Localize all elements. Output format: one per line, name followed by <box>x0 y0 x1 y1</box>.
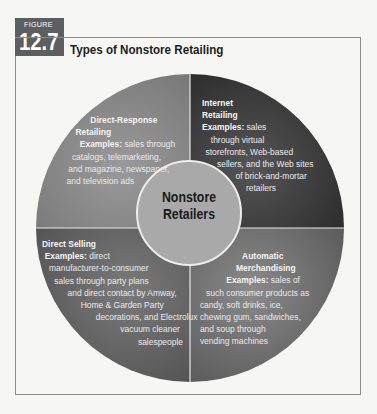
automatic-merchandising-heading: Automatic <box>242 250 283 261</box>
direct-selling-heading: Direct Selling <box>42 238 96 249</box>
direct-selling-text: Direct Selling Examples: direct manufact… <box>42 238 198 348</box>
internet-retailing-heading: Internet <box>202 97 233 108</box>
direct-response-heading: Direct-Response <box>90 114 157 125</box>
internet-retailing-text: Internet Retailing Examples: sales throu… <box>202 97 313 195</box>
direct-response-text: Direct-Response Retailing Examples: sale… <box>71 114 175 187</box>
automatic-merchandising-text: Automatic Merchandising Examples: sales … <box>199 250 309 348</box>
